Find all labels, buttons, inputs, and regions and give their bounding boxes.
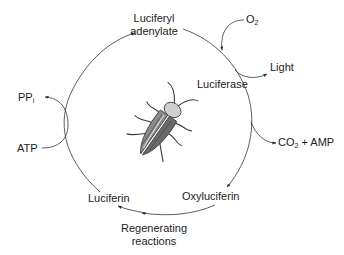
label-luciferase: Luciferase (197, 78, 248, 91)
label-luciferyl-adenylate: Luciferyl adenylate (130, 12, 178, 38)
label-regenerating-line2: reactions (118, 235, 190, 248)
arc-oxyluciferin-to-luciferin (142, 205, 215, 215)
arc-luciferin-to-adenylate (64, 33, 135, 192)
arc-adenylate-to-oxyluciferin (183, 29, 252, 187)
label-o2-sub: 2 (255, 19, 259, 26)
arc-regenerating-to-luciferin (118, 206, 145, 213)
label-ppi-sub: i (33, 97, 35, 104)
label-light: Light (270, 61, 294, 74)
label-regenerating-reactions: Regenerating reactions (118, 222, 190, 248)
arrow-o2-in (222, 20, 244, 50)
label-regenerating-line1: Regenerating (118, 222, 190, 235)
label-atp: ATP (17, 142, 38, 155)
arrow-ppi-out (45, 97, 68, 125)
cycle-diagram (0, 0, 344, 255)
label-ppi-main: PP (18, 91, 33, 103)
label-o2: O2 (246, 13, 258, 29)
label-luciferyl-adenylate-line2: adenylate (130, 25, 178, 38)
label-ppi: PPi (18, 91, 34, 107)
label-co2-main: CO (278, 136, 295, 148)
label-oxyluciferin: Oxyluciferin (182, 190, 239, 203)
firefly-beetle-icon (119, 76, 208, 170)
label-co2-amp: CO2 + AMP (278, 136, 334, 152)
arrow-co2-amp-out (251, 122, 276, 143)
label-luciferyl-adenylate-line1: Luciferyl (130, 12, 178, 25)
label-amp: + AMP (298, 136, 334, 148)
label-luciferin: Luciferin (88, 192, 130, 205)
label-o2-main: O (246, 13, 255, 25)
